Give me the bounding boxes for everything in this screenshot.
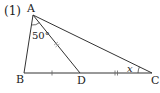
point-label-b: B bbox=[16, 74, 24, 85]
segment-ab bbox=[24, 15, 33, 73]
segment-ad bbox=[33, 15, 80, 73]
angle-label-acb: x bbox=[127, 64, 133, 74]
geometry-figure: (1) A B D C 50° x bbox=[0, 0, 160, 93]
angle-label-bad: 50° bbox=[32, 31, 50, 41]
point-label-c: C bbox=[151, 75, 159, 86]
point-label-d: D bbox=[77, 75, 86, 86]
angle-arc-a bbox=[32, 23, 40, 26]
angle-arc-c bbox=[138, 67, 140, 73]
problem-number: (1) bbox=[4, 5, 21, 17]
segment-ac bbox=[33, 15, 152, 73]
point-label-a: A bbox=[27, 3, 35, 14]
